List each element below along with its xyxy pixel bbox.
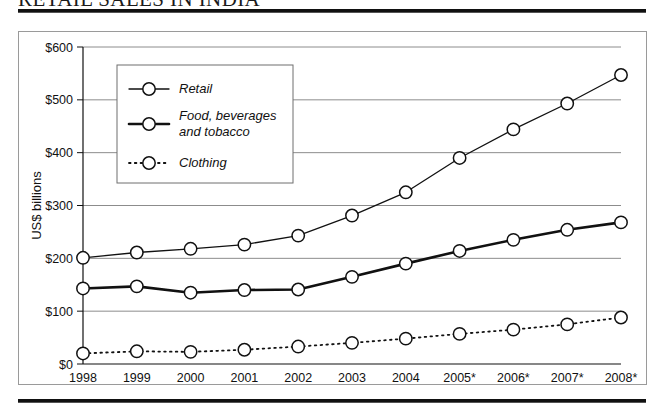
data-point-marker bbox=[238, 238, 250, 250]
x-axis-tick-label: 2002 bbox=[284, 371, 312, 384]
data-point-marker bbox=[507, 234, 519, 246]
x-axis-tick-label: 1998 bbox=[69, 371, 97, 384]
data-point-marker bbox=[238, 344, 250, 356]
y-axis-tick-label: $200 bbox=[45, 252, 73, 266]
footer-divider-rule bbox=[18, 399, 646, 402]
data-point-marker bbox=[453, 152, 465, 164]
data-point-marker bbox=[292, 229, 304, 241]
y-axis-tick-label: $600 bbox=[45, 41, 73, 55]
data-point-marker bbox=[346, 337, 358, 349]
data-point-marker bbox=[561, 97, 573, 109]
legend-label: and tobacco bbox=[179, 124, 250, 139]
data-point-marker bbox=[77, 252, 89, 264]
data-point-marker bbox=[561, 224, 573, 236]
x-axis-labels: 19981999200020012002200320042005*2006*20… bbox=[69, 371, 637, 384]
data-point-marker bbox=[184, 346, 196, 358]
data-point-marker bbox=[561, 318, 573, 330]
data-point-marker bbox=[184, 286, 196, 298]
x-axis-tick-label: 2007* bbox=[551, 371, 584, 384]
x-axis-tick-label: 1999 bbox=[123, 371, 151, 384]
legend-sample-marker bbox=[143, 118, 155, 130]
legend-label: Clothing bbox=[179, 155, 227, 170]
x-axis-tick-label: 2006* bbox=[497, 371, 530, 384]
data-point-marker bbox=[131, 280, 143, 292]
chart-frame: $0$100$200$300$400$500$600US$ billions19… bbox=[18, 31, 647, 385]
series-3 bbox=[77, 311, 627, 359]
data-point-marker bbox=[292, 283, 304, 295]
y-axis-tick-label: $0 bbox=[59, 358, 73, 372]
data-point-marker bbox=[346, 271, 358, 283]
data-point-marker bbox=[615, 69, 627, 81]
x-axis-tick-label: 2003 bbox=[338, 371, 366, 384]
data-point-marker bbox=[615, 216, 627, 228]
x-axis-tick-label: 2008* bbox=[605, 371, 638, 384]
data-point-marker bbox=[615, 311, 627, 323]
legend-sample-marker bbox=[143, 157, 155, 169]
data-point-marker bbox=[453, 328, 465, 340]
series-2 bbox=[77, 216, 627, 299]
data-point-marker bbox=[346, 209, 358, 221]
data-point-marker bbox=[507, 323, 519, 335]
legend-sample-marker bbox=[143, 83, 155, 95]
data-point-marker bbox=[400, 332, 412, 344]
data-point-marker bbox=[77, 282, 89, 294]
y-axis-tick-label: $400 bbox=[45, 146, 73, 160]
y-axis-tick-label: $100 bbox=[45, 305, 73, 319]
title-divider-rule bbox=[18, 9, 646, 12]
x-axis-tick-label: 2000 bbox=[177, 371, 205, 384]
data-point-marker bbox=[131, 345, 143, 357]
data-point-marker bbox=[400, 186, 412, 198]
x-axis-tick-label: 2005* bbox=[443, 371, 476, 384]
data-point-marker bbox=[238, 284, 250, 296]
line-chart: $0$100$200$300$400$500$600US$ billions19… bbox=[19, 32, 646, 384]
data-point-marker bbox=[77, 347, 89, 359]
data-point-marker bbox=[400, 257, 412, 269]
y-axis-title: US$ billions bbox=[29, 171, 44, 240]
data-point-marker bbox=[292, 340, 304, 352]
data-point-marker bbox=[453, 245, 465, 257]
y-axis-tick-label: $300 bbox=[45, 199, 73, 213]
data-point-marker bbox=[184, 243, 196, 255]
x-axis-tick-label: 2001 bbox=[230, 371, 258, 384]
legend-label: Retail bbox=[179, 81, 213, 96]
y-axis-tick-label: $500 bbox=[45, 93, 73, 107]
data-point-marker bbox=[507, 123, 519, 135]
data-point-marker bbox=[131, 246, 143, 258]
chart-legend: RetailFood, beveragesand tobaccoClothing bbox=[117, 65, 293, 183]
x-axis-tick-label: 2004 bbox=[392, 371, 420, 384]
legend-label: Food, beverages bbox=[179, 108, 277, 123]
